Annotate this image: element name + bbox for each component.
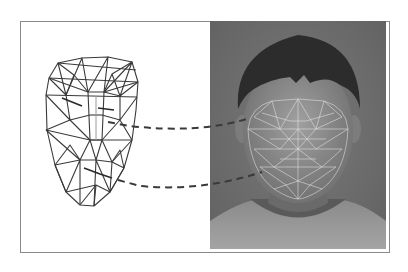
face-photo [210,21,386,249]
